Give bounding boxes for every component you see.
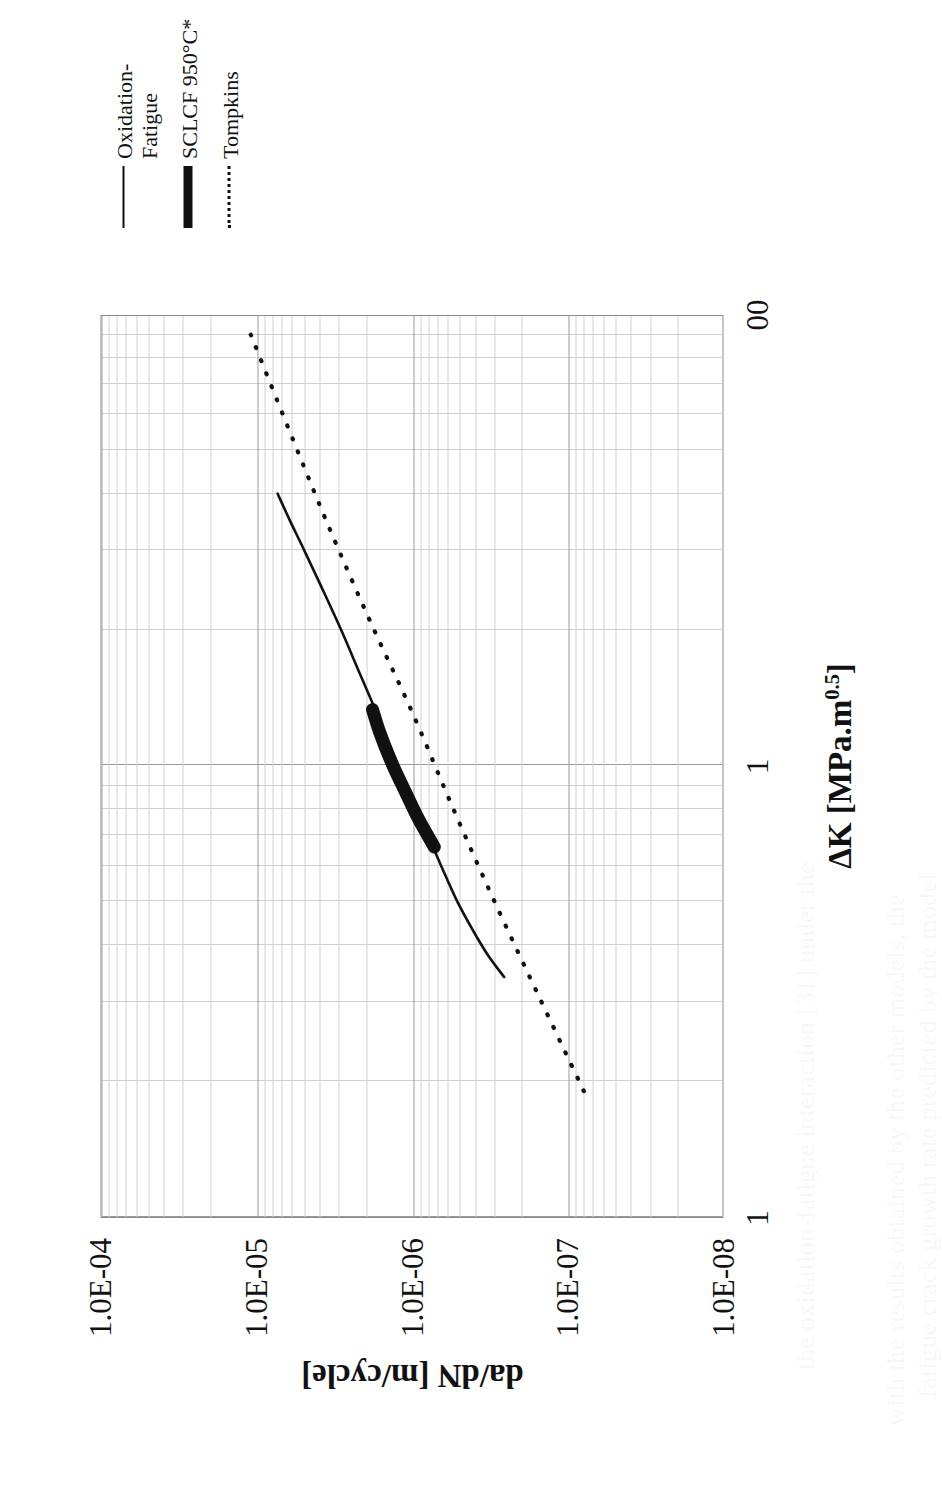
x-axis-title-main: ΔK [MPa.m xyxy=(821,700,857,869)
legend-item-tompkins: Tompkins xyxy=(218,13,243,228)
y-tick-label: 1.0E-05 xyxy=(240,1238,271,1418)
curve-svg xyxy=(101,314,724,1217)
x-axis-title-tail: ] xyxy=(821,663,857,674)
y-axis-title: da/dN [m/cycle] xyxy=(301,1357,524,1394)
y-tick-label: 1.0E-07 xyxy=(552,1238,583,1418)
x-tick-label: 00 xyxy=(741,300,772,331)
x-axis-title: ΔK [MPa.m0.5] xyxy=(820,663,858,869)
page-bleed-line-2: fatigue crack growth rate predicted by t… xyxy=(912,873,942,1398)
legend-item-oxidation-fatigue: Oxidation- Fatigue xyxy=(112,13,161,228)
legend-label-oxidation-fatigue: Oxidation- Fatigue xyxy=(112,64,161,159)
series-tompkins-path xyxy=(250,335,583,1091)
legend-label-sclcf: SCLCF 950°C* xyxy=(177,19,202,159)
line-thin-icon xyxy=(112,166,134,228)
legend-item-sclcf: SCLCF 950°C* xyxy=(177,13,202,228)
y-tick-label: 1.0E-08 xyxy=(708,1238,739,1418)
page-bleed-line-1: with the results obtained by the other m… xyxy=(880,894,910,1426)
x-tick-label: 1 xyxy=(741,1210,772,1226)
line-dotted-icon xyxy=(218,166,240,228)
page-bleed-line-3: the oxidation-fatigue interaction [31] u… xyxy=(790,862,820,1370)
line-thick-icon xyxy=(177,166,199,228)
series-oxidation-fatigue-path xyxy=(277,494,504,977)
x-axis-title-exponent: 0.5 xyxy=(820,674,842,700)
y-tick-label: 1.0E-04 xyxy=(85,1238,116,1418)
series-sclcf-path xyxy=(372,710,434,847)
x-tick-label: 1 xyxy=(741,759,772,775)
plot-area xyxy=(100,315,723,1218)
legend-label-tompkins: Tompkins xyxy=(218,71,243,159)
chart-legend: Oxidation- Fatigue SCLCF 950°C* Tompkins xyxy=(112,13,259,228)
data-curves xyxy=(101,316,722,1217)
